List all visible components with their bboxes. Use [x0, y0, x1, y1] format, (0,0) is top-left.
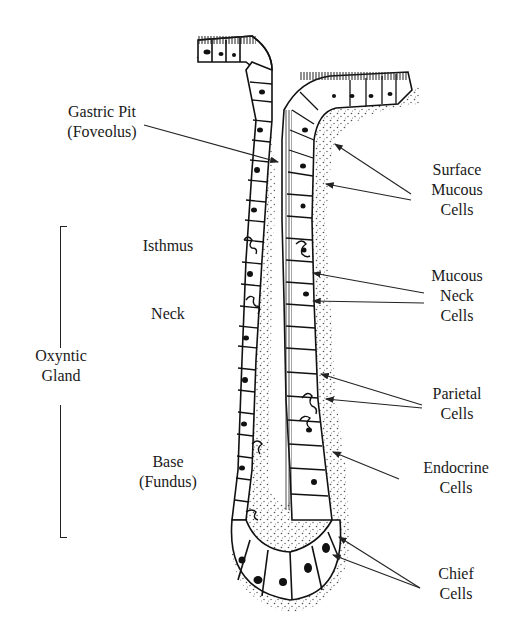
pointer-surface-mucous-1 [335, 144, 411, 194]
pointer-surface-mucous-2 [326, 184, 411, 200]
label-parietal-cells: Parietal Cells [414, 384, 500, 424]
label-neck: Neck [128, 304, 208, 324]
oxyntic-gland-bracket-lower [60, 405, 61, 538]
label-chief-cells: Chief Cells [406, 564, 506, 604]
label-isthmus: Isthmus [128, 236, 208, 256]
label-gastric-pit: Gastric Pit (Foveolus) [52, 102, 152, 142]
label-oxyntic-gland: Oxyntic Gland [18, 346, 104, 386]
label-mucous-neck-cells: Mucous Neck Cells [414, 266, 500, 326]
right-epithelium [282, 72, 412, 520]
label-base: Base (Fundus) [122, 452, 214, 492]
oxyntic-gland-bracket-upper [60, 226, 61, 348]
oxyntic-gland-bracket-top-tick [60, 226, 67, 227]
label-surface-mucous-cells: Surface Mucous Cells [414, 160, 500, 220]
label-endocrine-cells: Endocrine Cells [406, 458, 506, 498]
pointer-mucous-neck-1 [313, 273, 424, 293]
oxyntic-gland-bracket-bottom-tick [60, 537, 67, 538]
